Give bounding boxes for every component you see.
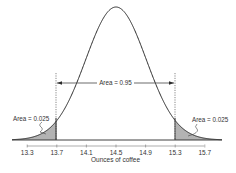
x-tick-label: 15.3 xyxy=(169,149,182,156)
left-tail-shade xyxy=(12,121,57,140)
center-area-label: Area = 0.95 xyxy=(99,79,132,86)
x-tick-label: 14.5 xyxy=(110,149,123,156)
x-tick-label: 14.1 xyxy=(80,149,93,156)
x-tick-label: 15.7 xyxy=(198,149,211,156)
x-tick-label: 14.9 xyxy=(139,149,152,156)
normal-distribution-chart: Area = 0.95 Area = 0.025 Area = 0.025 13… xyxy=(0,0,236,173)
x-tick-label: 13.3 xyxy=(21,149,34,156)
x-tick-label: 13.7 xyxy=(50,149,63,156)
right-area-label: Area = 0.025 xyxy=(192,116,229,123)
x-axis-title: Ounces of coffee xyxy=(91,156,140,163)
left-area-label: Area = 0.025 xyxy=(13,115,50,122)
shaded-tails xyxy=(12,121,222,140)
